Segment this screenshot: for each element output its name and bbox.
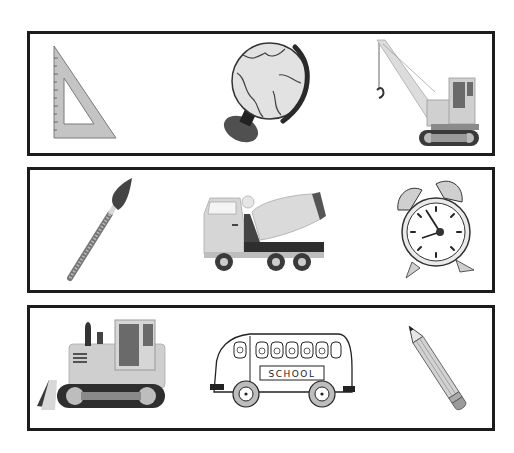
- row-2-panel: Paintbrush Cement mixer truck Alarm cloc: [27, 167, 495, 293]
- cement-mixer-icon: Cement mixer truck: [202, 194, 327, 274]
- alarm-clock-icon: Alarm clock: [396, 180, 478, 280]
- pencil-icon: Pencil: [400, 318, 475, 420]
- school-bus-icon: SCHOOL: [210, 328, 355, 413]
- globe-icon: Globe: [213, 39, 318, 147]
- bulldozer-icon: Bulldozer: [35, 318, 170, 418]
- bus-sign-text: SCHOOL: [269, 369, 316, 379]
- row-3-panel: Bulldozer: [27, 305, 495, 431]
- row-1-panel: Set square (triangle ruler) Globe Cra: [27, 31, 495, 156]
- set-square-icon: Set square (triangle ruler): [50, 44, 120, 140]
- crane-icon: Crawler crane: [375, 40, 485, 150]
- paintbrush-icon: Paintbrush: [62, 178, 142, 283]
